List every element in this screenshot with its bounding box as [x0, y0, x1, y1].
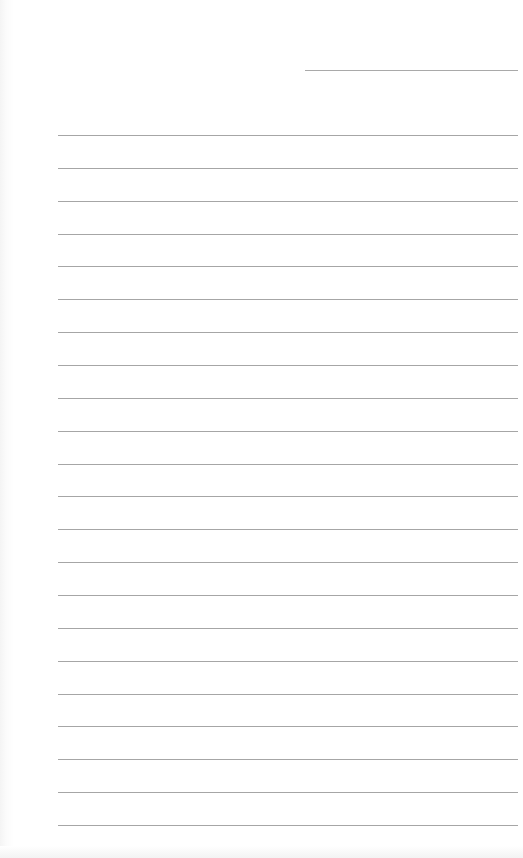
ruled-line[interactable] — [58, 825, 518, 826]
ruled-line[interactable] — [58, 792, 518, 793]
ruled-line[interactable] — [58, 266, 518, 267]
ruled-line[interactable] — [58, 464, 518, 465]
ruled-line[interactable] — [58, 562, 518, 563]
ruled-line[interactable] — [58, 168, 518, 169]
ruled-line[interactable] — [58, 661, 518, 662]
ruled-line[interactable] — [58, 135, 518, 136]
ruled-line[interactable] — [58, 299, 518, 300]
ruled-line[interactable] — [58, 726, 518, 727]
ruled-line[interactable] — [58, 529, 518, 530]
ruled-line[interactable] — [58, 759, 518, 760]
ruled-line[interactable] — [58, 201, 518, 202]
ruled-line[interactable] — [58, 496, 518, 497]
ruled-line[interactable] — [58, 332, 518, 333]
ruled-line[interactable] — [58, 398, 518, 399]
ruled-line[interactable] — [58, 694, 518, 695]
page-bottom-edge — [0, 846, 523, 858]
ruled-line[interactable] — [58, 595, 518, 596]
ruled-line[interactable] — [58, 365, 518, 366]
ruled-line[interactable] — [58, 431, 518, 432]
ruled-line[interactable] — [58, 628, 518, 629]
lined-paper-page — [0, 0, 523, 858]
header-write-line[interactable] — [305, 70, 518, 71]
ruled-line[interactable] — [58, 234, 518, 235]
